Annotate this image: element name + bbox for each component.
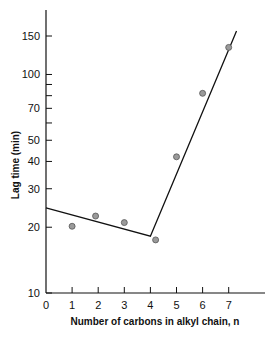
data-point [153,237,159,243]
x-tick-label: 6 [200,299,206,311]
data-point [226,44,232,50]
x-tick-label: 0 [43,299,49,311]
y-axis: 102030405070100150 [22,10,52,299]
fit-line [46,31,237,236]
data-point [121,220,127,226]
y-tick-label: 40 [28,155,40,167]
x-tick-label: 2 [95,299,101,311]
data-point [93,213,99,219]
x-tick-label: 3 [121,299,127,311]
data-points [69,44,232,242]
y-tick-label: 100 [22,68,40,80]
lag-time-chart: 102030405070100150 01234567 Number of ca… [0,0,275,338]
x-axis-label: Number of carbons in alkyl chain, n [71,316,240,327]
x-tick-label: 1 [69,299,75,311]
y-axis-label: Lag time (min) [10,131,21,199]
data-point [200,90,206,96]
data-point [174,154,180,160]
data-point [69,223,75,229]
y-tick-label: 70 [28,102,40,114]
y-tick-label: 20 [28,221,40,233]
y-tick-label: 150 [22,30,40,42]
y-tick-label: 10 [28,287,40,299]
x-tick-label: 7 [226,299,232,311]
y-tick-label: 50 [28,134,40,146]
x-axis: 01234567 [43,287,265,311]
x-tick-label: 4 [147,299,153,311]
y-tick-label: 30 [28,183,40,195]
x-tick-label: 5 [173,299,179,311]
